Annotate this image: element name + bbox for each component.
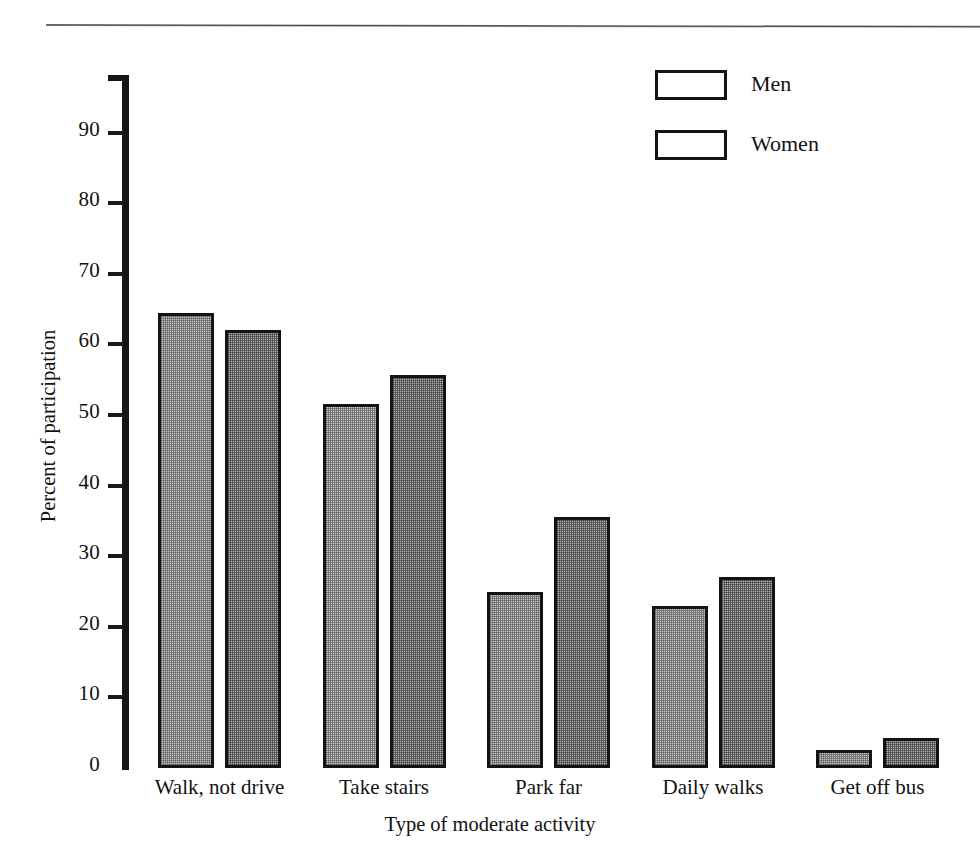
figure: 0102030405060708090 Percent of participa…: [0, 0, 980, 855]
y-axis-tick: [108, 131, 123, 135]
legend-swatch-women-icon: [655, 130, 727, 160]
y-axis-tick-label: 30: [54, 542, 100, 563]
legend-label-women: Women: [751, 126, 819, 162]
y-axis-line: [122, 75, 129, 770]
y-axis-tick-label: 50: [54, 401, 100, 422]
y-axis-tick: [108, 554, 123, 558]
bar-men-2: [487, 592, 543, 769]
y-axis-top-cap: [108, 75, 129, 81]
bar-women-1: [390, 375, 446, 768]
bar-women-3: [719, 577, 775, 768]
y-axis-tick-label: 40: [54, 472, 100, 493]
y-axis-tick-label: 90: [54, 119, 100, 140]
y-axis-tick: [108, 625, 123, 629]
y-axis-tick-label: 0: [54, 754, 100, 775]
y-axis-tick-label: 60: [54, 330, 100, 351]
legend-label-men: Men: [751, 66, 791, 102]
legend-item-men: Men: [655, 66, 905, 126]
y-axis-title: Percent of participation: [37, 296, 59, 556]
bar-women-0: [225, 330, 281, 768]
bar-women-4: [883, 738, 939, 768]
y-axis-tick-label: 80: [54, 189, 100, 210]
y-axis-tick: [108, 413, 123, 417]
legend-swatch-men-icon: [655, 70, 727, 100]
x-axis-title: Type of moderate activity: [0, 812, 980, 836]
bar-women-2: [554, 517, 610, 768]
y-axis-tick-label: 10: [54, 683, 100, 704]
y-axis-tick: [108, 342, 123, 346]
y-axis-tick: [108, 201, 123, 205]
y-axis-tick-label: 70: [54, 260, 100, 281]
y-axis-tick-label: 20: [54, 613, 100, 634]
bar-men-4: [816, 750, 872, 768]
legend-item-women: Women: [655, 126, 905, 186]
bar-men-1: [323, 404, 379, 768]
y-axis-tick: [108, 695, 123, 699]
y-axis-tick: [108, 272, 123, 276]
x-axis-category-label: Get off bus: [778, 775, 977, 799]
legend: Men Women: [655, 66, 905, 186]
y-axis-tick: [108, 484, 123, 488]
bar-men-3: [652, 606, 708, 768]
bar-men-0: [158, 313, 214, 768]
